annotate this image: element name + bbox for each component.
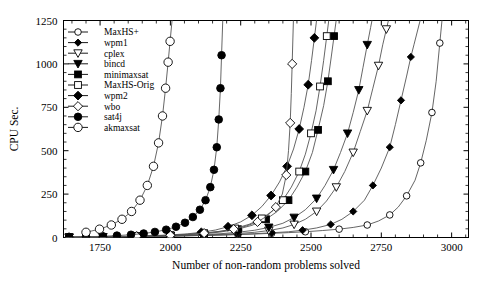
marker-square-filled <box>324 78 331 85</box>
marker-circle-filled <box>217 84 225 92</box>
marker-diamond-open <box>73 102 82 111</box>
marker-circle-filled <box>210 166 218 174</box>
legend-label: wpm2 <box>104 91 128 101</box>
marker-diamond-filled <box>74 91 83 100</box>
series-line <box>69 0 224 237</box>
marker-circle-filled <box>113 232 121 240</box>
y-tick-label: 1000 <box>36 58 59 70</box>
marker-triangle-down-filled <box>329 166 337 174</box>
marker-circle-open <box>136 196 144 204</box>
marker-circle-open <box>149 162 157 170</box>
marker-triangle-down-open <box>332 184 340 192</box>
y-tick-label: 750 <box>41 101 58 113</box>
marker-square-open <box>296 168 303 175</box>
legend-label: minimaxsat <box>104 70 149 80</box>
marker-circle-open <box>75 29 82 36</box>
legend-label: sat4j <box>104 112 122 122</box>
marker-circle-filled <box>189 213 197 221</box>
marker-triangle-down-open <box>363 107 371 115</box>
marker-diamond-filled <box>295 125 304 134</box>
marker-circle-open <box>161 84 169 92</box>
marker-circle-open <box>118 215 126 223</box>
marker-triangle-down-open <box>382 26 390 34</box>
marker-square-open <box>75 82 82 89</box>
marker-square-open <box>317 83 324 90</box>
marker-diamond-filled <box>327 221 334 228</box>
marker-circle-filled <box>202 196 210 204</box>
marker-circle-open <box>107 221 115 229</box>
marker-circle-open <box>74 123 82 131</box>
legend-label: cplex <box>104 49 125 59</box>
marker-diamond-open <box>286 118 295 127</box>
marker-circle-filled <box>213 143 221 151</box>
y-tick-label: 1250 <box>36 15 59 27</box>
series-sat4j <box>65 0 225 241</box>
marker-circle-filled <box>140 230 148 238</box>
marker-circle-filled <box>181 219 189 227</box>
marker-diamond-filled <box>407 53 414 60</box>
y-tick-label: 0 <box>52 232 58 244</box>
legend-item-bincd[interactable]: bincd <box>68 59 125 69</box>
marker-diamond-filled <box>310 33 319 42</box>
marker-circle-open <box>403 193 410 200</box>
x-tick-label: 3000 <box>441 241 464 253</box>
marker-circle-open <box>437 40 444 47</box>
legend-item-MaxHS-Orig[interactable]: MaxHS-Orig <box>68 80 154 90</box>
x-tick-label: 2500 <box>300 241 323 253</box>
legend-item-cplex[interactable]: cplex <box>68 49 125 59</box>
legend-item-akmaxsat[interactable]: akmaxsat <box>68 123 140 133</box>
marker-circle-open <box>166 37 174 45</box>
legend-item-wpm2[interactable]: wpm2 <box>68 91 128 101</box>
marker-triangle-down-filled <box>355 87 363 95</box>
marker-diamond-filled <box>304 80 313 89</box>
marker-circle-open <box>417 160 424 167</box>
marker-circle-filled <box>74 113 82 121</box>
marker-circle-open <box>364 222 371 229</box>
marker-circle-filled <box>207 183 215 191</box>
marker-circle-open <box>127 207 135 215</box>
x-tick-label: 1750 <box>89 241 112 253</box>
legend-label: wpm1 <box>104 38 128 48</box>
legend-item-wpm1[interactable]: wpm1 <box>68 38 128 48</box>
marker-square-filled <box>331 33 338 40</box>
marker-circle-open <box>95 225 103 233</box>
marker-circle-filled <box>65 233 73 241</box>
marker-triangle-down-open <box>349 149 357 157</box>
marker-circle-open <box>429 109 436 116</box>
x-tick-label: 2250 <box>230 241 253 253</box>
chart-svg: 1750200022502500275030000250500750100012… <box>0 0 497 285</box>
marker-square-filled <box>75 71 82 78</box>
marker-circle-filled <box>172 223 180 231</box>
marker-diamond-filled <box>369 182 376 189</box>
chart-figure: 1750200022502500275030000250500750100012… <box>0 0 497 285</box>
marker-circle-open <box>143 181 151 189</box>
legend-item-MaxHS+[interactable]: MaxHS+ <box>68 27 139 37</box>
marker-circle-filled <box>162 226 170 234</box>
legend-label: bincd <box>104 59 125 69</box>
marker-triangle-down-filled <box>363 41 371 49</box>
x-axis-label: Number of non-random problems solved <box>172 259 360 272</box>
legend-label: MaxHS-Orig <box>104 80 154 90</box>
marker-circle-open <box>154 139 162 147</box>
marker-triangle-down-open <box>312 208 320 216</box>
marker-diamond-filled <box>386 144 393 151</box>
marker-circle-open <box>336 226 343 233</box>
legend-label: akmaxsat <box>104 123 140 133</box>
legend-item-wbo[interactable]: wbo <box>68 102 121 112</box>
marker-triangle-down-filled <box>343 130 351 138</box>
legend-item-sat4j[interactable]: sat4j <box>68 112 122 122</box>
y-tick-label: 250 <box>41 188 58 200</box>
x-tick-label: 2000 <box>159 241 182 253</box>
marker-diamond-filled <box>74 39 81 46</box>
marker-circle-filled <box>215 116 223 124</box>
marker-square-open <box>308 130 315 137</box>
marker-circle-filled <box>196 206 204 214</box>
marker-circle-open <box>158 112 166 120</box>
marker-square-filled <box>315 126 322 133</box>
marker-triangle-down-open <box>374 62 382 70</box>
marker-diamond-open <box>288 59 297 68</box>
marker-circle-open <box>164 58 172 66</box>
legend-item-minimaxsat[interactable]: minimaxsat <box>68 70 149 80</box>
marker-circle-filled <box>127 231 135 239</box>
series-wbo <box>65 0 297 242</box>
